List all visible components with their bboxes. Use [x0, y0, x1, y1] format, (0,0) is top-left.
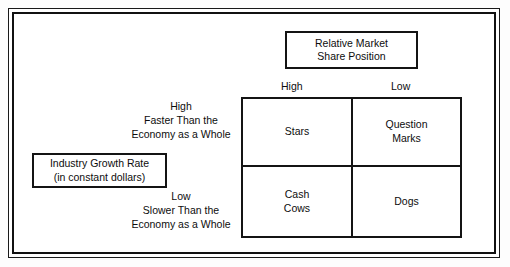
row-axis-title-line-1: Industry Growth Rate	[50, 157, 149, 170]
quadrant-question-marks-label-1: Question	[385, 118, 427, 132]
quadrant-cash-cows-label-2: Cows	[284, 202, 310, 216]
row-label-high-growth-desc-2: Economy as a Whole	[122, 128, 240, 142]
row-label-high-growth-level: High	[122, 100, 240, 114]
quadrant-stars: Stars	[243, 99, 351, 165]
row-axis-title-line-2: (in constant dollars)	[54, 171, 146, 184]
row-axis-title-box: Industry Growth Rate (in constant dollar…	[32, 153, 167, 188]
column-axis-title-line-1: Relative Market	[315, 37, 388, 50]
quadrant-cash-cows-label-1: Cash	[285, 188, 310, 202]
matrix-grid: Stars Question Marks Cash Cows Dogs	[241, 97, 462, 238]
row-label-high-growth-desc-1: Faster Than the	[122, 114, 240, 128]
column-header-low: Low	[391, 80, 410, 92]
quadrant-dogs-label: Dogs	[394, 195, 419, 209]
bcg-matrix-figure: Relative Market Share Position High Low …	[0, 0, 510, 267]
quadrant-cash-cows: Cash Cows	[243, 167, 351, 236]
quadrant-dogs: Dogs	[353, 167, 460, 236]
column-axis-title-line-2: Share Position	[317, 50, 385, 63]
row-label-low-growth-level: Low	[122, 190, 240, 204]
row-label-low-growth: Low Slower Than the Economy as a Whole	[122, 190, 240, 232]
column-header-high: High	[281, 80, 303, 92]
quadrant-question-marks-label-2: Marks	[392, 132, 421, 146]
figure-canvas: Relative Market Share Position High Low …	[0, 0, 510, 267]
column-axis-title-box: Relative Market Share Position	[285, 31, 418, 69]
quadrant-question-marks: Question Marks	[353, 99, 460, 165]
row-label-low-growth-desc-2: Economy as a Whole	[122, 218, 240, 232]
quadrant-stars-label: Stars	[285, 125, 310, 139]
row-label-low-growth-desc-1: Slower Than the	[122, 204, 240, 218]
row-label-high-growth: High Faster Than the Economy as a Whole	[122, 100, 240, 142]
